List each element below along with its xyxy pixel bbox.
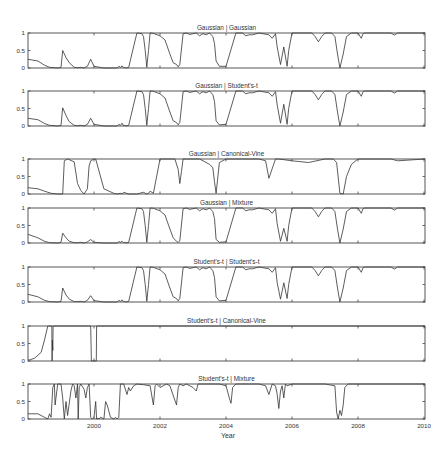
subplot-title: Gaussian | Student's-t — [195, 82, 258, 90]
y-tick-label: 0 — [22, 64, 26, 71]
subplot-3: Gaussian | Canonical-Vine00.51 — [16, 150, 425, 198]
subplot-title: Gaussian | Mixture — [200, 199, 254, 207]
probability-line — [28, 91, 425, 126]
shared-x-axis: 200020022004200620082010 — [87, 422, 431, 429]
probability-line — [28, 159, 425, 194]
subplot-title: Gaussian | Canonical-Vine — [189, 150, 265, 158]
y-tick-label: 1 — [22, 322, 26, 329]
stacked-line-chart-figure: Gaussian | Gaussian00.51Gaussian | Stude… — [0, 0, 446, 455]
y-tick-label: 0 — [22, 239, 26, 246]
y-tick-label: 0 — [22, 190, 26, 197]
x-tick-label: 2004 — [219, 422, 233, 429]
x-tick-label: 2006 — [285, 422, 299, 429]
y-tick-label: 1 — [22, 87, 26, 94]
y-tick-label: 0.5 — [16, 340, 25, 347]
axes-box — [28, 384, 425, 419]
chart-panels: Gaussian | Gaussian00.51Gaussian | Stude… — [16, 24, 425, 423]
axes-box — [28, 91, 425, 126]
subplot-5: Student's-t | Student's-t00.51 — [16, 258, 425, 306]
y-tick-label: 1 — [22, 204, 26, 211]
subplot-1: Gaussian | Gaussian00.51 — [16, 24, 425, 72]
probability-line — [28, 33, 425, 68]
x-tick-label: 2002 — [153, 422, 167, 429]
y-tick-label: 1 — [22, 29, 26, 36]
y-tick-label: 0.5 — [16, 222, 25, 229]
subplot-title: Student's-t | Canonical-Vine — [187, 317, 266, 325]
subplot-6: Student's-t | Canonical-Vine00.51 — [16, 317, 425, 365]
x-axis-label: Year — [221, 432, 236, 439]
y-tick-label: 0 — [22, 357, 26, 364]
y-tick-label: 0 — [22, 122, 26, 129]
y-tick-label: 0 — [22, 415, 26, 422]
probability-line — [28, 326, 425, 361]
probability-line — [28, 384, 425, 419]
axes-box — [28, 326, 425, 361]
y-tick-label: 1 — [22, 155, 26, 162]
y-tick-label: 1 — [22, 380, 26, 387]
x-tick-label: 2010 — [417, 422, 431, 429]
x-tick-label: 2000 — [87, 422, 101, 429]
axes-box — [28, 208, 425, 243]
y-tick-label: 0.5 — [16, 173, 25, 180]
axes-box — [28, 267, 425, 302]
y-tick-label: 0.5 — [16, 281, 25, 288]
subplot-title: Student's-t | Student's-t — [194, 258, 260, 266]
y-tick-label: 0 — [22, 298, 26, 305]
x-tick-label: 2008 — [351, 422, 365, 429]
subplot-4: Gaussian | Mixture00.51 — [16, 199, 425, 247]
subplot-title: Student's-t | Mixture — [198, 375, 255, 383]
subplot-2: Gaussian | Student's-t00.51 — [16, 82, 425, 130]
y-tick-label: 0.5 — [16, 398, 25, 405]
subplot-title: Gaussian | Gaussian — [197, 24, 257, 32]
y-tick-label: 1 — [22, 263, 26, 270]
subplot-7: Student's-t | Mixture00.51 — [16, 375, 425, 423]
y-tick-label: 0.5 — [16, 105, 25, 112]
y-tick-label: 0.5 — [16, 47, 25, 54]
probability-line — [28, 208, 425, 243]
probability-line — [28, 267, 425, 302]
axes-box — [28, 33, 425, 68]
